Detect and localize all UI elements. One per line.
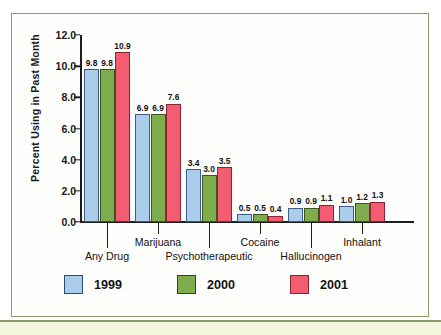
x-axis-tick-mark [107, 222, 108, 248]
bar-value-label: 3.0 [203, 164, 215, 174]
bar-2000-hallucinogen [304, 208, 319, 222]
bar-value-label: 0.9 [305, 196, 317, 206]
x-axis-tick-mark [362, 222, 363, 234]
bar-1999-cocaine [237, 214, 252, 222]
x-axis-tick-mark [158, 222, 159, 234]
bar-2001-psychotherapeutic [217, 167, 232, 222]
legend-item-2001[interactable]: 2001 [290, 275, 348, 294]
bar-2001-marijuana [166, 104, 181, 222]
x-axis-tick-mark [260, 222, 261, 234]
bar-2000-marijuana [151, 114, 166, 222]
bar-group: 9.89.810.9 [84, 35, 130, 222]
y-axis-tick-mark [74, 65, 80, 66]
bar-2001-cocaine [268, 216, 283, 222]
bar-1999-marijuana [135, 114, 150, 222]
x-axis-tick-mark [209, 222, 210, 248]
legend-label: 1999 [94, 278, 122, 292]
bar-value-label: 9.8 [86, 58, 98, 68]
bar-1999-inhalant [339, 206, 354, 222]
legend-swatch-2001 [290, 275, 309, 294]
bar-value-label: 0.5 [239, 203, 251, 213]
bar-1999-hallucinogen [288, 208, 303, 222]
y-axis-tick-labels: 12.010.08.06.04.02.00.0 [36, 35, 76, 221]
y-axis-tick-label: 12.0 [56, 29, 76, 41]
x-axis-category-label: Psychotherapeutic [165, 250, 252, 262]
x-axis-category-label: Marijuana [135, 236, 182, 248]
bar-value-label: 0.9 [290, 196, 302, 206]
bar-groups: 9.89.810.96.96.97.63.43.03.50.50.50.40.9… [82, 35, 412, 222]
bar-1999-any-drug [84, 69, 99, 222]
chart-screenshot: Percent Using in Past Month 12.010.08.06… [0, 0, 441, 335]
bar-2001-inhalant [370, 202, 385, 222]
bar-group: 3.43.03.5 [186, 35, 232, 222]
bar-group: 0.90.91.1 [288, 35, 334, 222]
bar-2001-hallucinogen [319, 205, 334, 222]
bar-value-label: 10.9 [114, 41, 130, 51]
y-axis-tick-mark [74, 97, 80, 98]
y-axis-tick-mark [74, 128, 80, 129]
x-axis-category-label: Cocaine [241, 236, 280, 248]
bar-value-label: 1.3 [372, 190, 384, 200]
bar-value-label: 6.9 [152, 103, 164, 113]
plot-area: Percent Using in Past Month 12.010.08.06… [12, 14, 430, 318]
bar-value-label: 1.2 [356, 192, 368, 202]
bar-2000-cocaine [253, 214, 268, 222]
legend-item-1999[interactable]: 1999 [64, 275, 122, 294]
y-axis-tick-mark [74, 34, 80, 35]
x-axis-tick-mark [311, 222, 312, 248]
bar-group: 0.50.50.4 [237, 35, 283, 222]
bar-group: 1.01.21.3 [339, 35, 385, 222]
legend-item-2000[interactable]: 2000 [177, 275, 235, 294]
bar-2000-inhalant [355, 203, 370, 222]
footer-band [0, 322, 441, 335]
bar-value-label: 7.6 [168, 92, 180, 102]
bar-value-label: 9.8 [101, 58, 113, 68]
bar-value-label: 1.1 [321, 193, 333, 203]
legend-label: 2000 [207, 278, 235, 292]
bar-value-label: 1.0 [341, 195, 353, 205]
legend-label: 2001 [320, 278, 348, 292]
bar-value-label: 3.4 [188, 158, 200, 168]
chart-panel: Percent Using in Past Month 12.010.08.06… [11, 13, 429, 317]
y-axis-tick-mark [74, 221, 80, 222]
bar-value-label: 6.9 [137, 103, 149, 113]
x-axis-category-label: Hallucinogen [280, 250, 341, 262]
bar-2000-psychotherapeutic [202, 175, 217, 222]
y-axis-tick-mark [74, 159, 80, 160]
legend-swatch-2000 [177, 275, 196, 294]
bar-value-label: 0.5 [254, 203, 266, 213]
chart-legend: 199920002001 [64, 275, 384, 305]
bar-value-label: 0.4 [270, 204, 282, 214]
bar-2000-any-drug [100, 69, 115, 222]
bar-1999-psychotherapeutic [186, 169, 201, 222]
x-axis-category-label: Any Drug [85, 250, 129, 262]
bar-2001-any-drug [115, 52, 130, 222]
bar-group: 6.96.97.6 [135, 35, 181, 222]
y-axis-tick-label: 10.0 [56, 60, 76, 72]
x-axis-category-label: Inhalant [343, 236, 381, 248]
bar-value-label: 3.5 [219, 156, 231, 166]
y-axis-tick-mark [74, 190, 80, 191]
legend-swatch-1999 [64, 275, 83, 294]
